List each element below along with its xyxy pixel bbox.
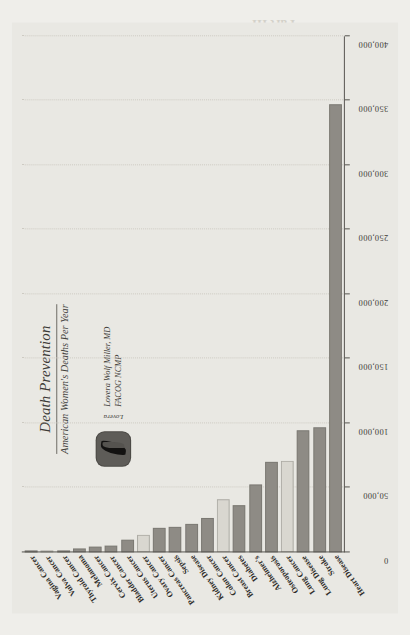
bar-row	[137, 36, 150, 552]
bar-row	[281, 36, 294, 552]
bar-row	[217, 36, 230, 552]
x-axis-tick	[345, 551, 350, 552]
category-label: Pancreas Cancer	[155, 553, 196, 606]
category-label: Colon Cancer	[203, 553, 238, 597]
figure-card: Death Prevention American Women's Deaths…	[12, 22, 398, 613]
category-label: Heart Disease	[331, 553, 366, 597]
x-axis-tick	[345, 486, 350, 487]
bar-row	[233, 36, 246, 552]
category-label: Osteoporosis	[267, 553, 300, 594]
bar	[281, 460, 294, 552]
bar	[121, 539, 134, 552]
bar	[249, 484, 262, 552]
category-label: Vagina Cancer	[27, 553, 64, 600]
x-axis-tick-label: 200,000	[358, 298, 388, 308]
bar	[313, 427, 326, 552]
x-axis-tick-label: 400,000	[358, 40, 388, 50]
bar	[201, 517, 214, 552]
bar-row	[185, 36, 198, 552]
x-axis-tick	[345, 293, 350, 294]
bar-row	[201, 36, 214, 552]
bar-row	[73, 36, 86, 552]
bar-row	[169, 36, 182, 552]
bar	[265, 462, 278, 552]
bar-series	[22, 36, 345, 552]
bar-row	[297, 36, 310, 552]
bar-row	[41, 36, 54, 552]
bar	[153, 527, 166, 552]
bar-row	[153, 36, 166, 552]
category-label: Alzheimer's	[252, 553, 283, 592]
category-label: Cervix Cancer	[91, 553, 127, 599]
category-label: Thyroid Cancer	[60, 553, 99, 603]
plot-inner: 050,000100,000150,000200,000250,000300,0…	[22, 36, 345, 552]
category-label: Ovary Cancer	[139, 553, 174, 598]
category-label: Bladder Cancer	[107, 553, 146, 603]
category-label: Lung Cancer	[283, 553, 316, 595]
bar-row	[265, 36, 278, 552]
bar	[169, 526, 182, 552]
bar-row	[89, 36, 102, 552]
y-axis	[22, 551, 345, 552]
x-axis-tick-label: 100,000	[358, 427, 388, 437]
x-axis-tick-label: 350,000	[358, 104, 388, 114]
bar	[137, 534, 150, 552]
bar	[217, 499, 230, 552]
category-label: Stroke	[316, 553, 336, 577]
x-axis-tick	[345, 164, 350, 165]
x-axis-tick-label: 300,000	[358, 169, 388, 179]
bar-row	[329, 36, 342, 552]
category-label: Kidney Disease	[188, 553, 225, 601]
bar-row	[105, 36, 118, 552]
category-label: Melanoma	[75, 553, 103, 588]
x-axis-tick	[345, 99, 350, 100]
bar	[329, 104, 342, 552]
x-axis-tick-label: 0	[384, 556, 389, 566]
bar	[185, 524, 198, 552]
category-label: Breast Cancer	[219, 553, 255, 599]
x-axis-tick	[345, 357, 350, 358]
bar-row	[249, 36, 262, 552]
category-label: Sepsis	[171, 553, 190, 575]
bar	[297, 429, 310, 552]
plot-area: 050,000100,000150,000200,000250,000300,0…	[22, 36, 345, 552]
bar-row	[57, 36, 70, 552]
x-axis-tick	[345, 35, 350, 36]
x-axis-tick	[345, 422, 350, 423]
bar-row	[25, 36, 38, 552]
figure-stage: Death Prevention American Women's Deaths…	[12, 22, 398, 613]
x-axis-tick-label: 50,000	[363, 491, 388, 501]
category-label: Lung Disease	[299, 553, 333, 596]
x-axis-tick-label: 250,000	[358, 233, 388, 243]
bar	[233, 504, 246, 552]
bar-row	[313, 36, 326, 552]
bar-row	[121, 36, 134, 552]
category-label: Uterus Cancer	[124, 553, 160, 599]
category-label: Diabetes	[235, 553, 259, 582]
x-axis-tick-label: 150,000	[358, 362, 388, 372]
x-axis-tick	[345, 228, 350, 229]
category-label: Vulva Cancer	[43, 553, 77, 597]
